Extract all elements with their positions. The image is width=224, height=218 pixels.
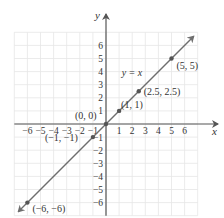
data-point bbox=[25, 200, 29, 204]
data-point bbox=[91, 135, 95, 139]
point-label: (−1, −1) bbox=[45, 132, 78, 144]
data-point bbox=[169, 56, 173, 60]
point-label: (−6, −6) bbox=[32, 203, 65, 215]
y-tick-label: 4 bbox=[98, 67, 103, 77]
y-tick-label: 5 bbox=[98, 54, 103, 64]
point-label: (5, 5) bbox=[177, 60, 199, 72]
point-label: (0, 0) bbox=[75, 110, 97, 122]
data-point bbox=[104, 122, 108, 126]
y-tick-label: −4 bbox=[93, 172, 103, 182]
point-label: (2.5, 2.5) bbox=[144, 86, 181, 98]
x-tick-label: 2 bbox=[130, 126, 135, 136]
y-axis-label: y bbox=[94, 9, 100, 21]
y-tick-label: 3 bbox=[98, 80, 103, 90]
y-tick-label: −2 bbox=[93, 146, 103, 156]
y-tick-label: 6 bbox=[98, 41, 103, 51]
x-tick-label: 5 bbox=[169, 126, 174, 136]
y-tick-label: −3 bbox=[93, 159, 103, 169]
y-tick-label: −5 bbox=[93, 185, 103, 195]
y-tick-label: 2 bbox=[98, 93, 103, 103]
equation-label: y = x bbox=[121, 67, 143, 78]
x-tick-label: 6 bbox=[182, 126, 187, 136]
x-tick-label: 3 bbox=[143, 126, 148, 136]
y-tick-label: −6 bbox=[93, 198, 103, 208]
y-tick-label: 1 bbox=[98, 106, 103, 116]
x-tick-label: 4 bbox=[156, 126, 161, 136]
data-point bbox=[137, 89, 141, 93]
x-tick-label: −6 bbox=[22, 126, 32, 136]
x-axis-label: x bbox=[211, 125, 217, 137]
line-graph-y-equals-x: xy −6−5−4−3−2−1123456−6−5−4−3−2−1123456 … bbox=[0, 0, 224, 218]
point-label: (1, 1) bbox=[121, 99, 143, 111]
x-tick-label: 1 bbox=[117, 126, 122, 136]
